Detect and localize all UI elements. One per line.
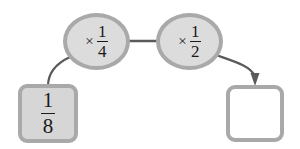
operation-2-numerator: 1 — [190, 23, 201, 40]
operation-1-numerator: 1 — [97, 23, 108, 40]
operation-2-fraction: 1 2 — [190, 23, 201, 61]
result-answer-box[interactable] — [226, 85, 284, 142]
multiplication-sign-icon: × — [85, 34, 93, 49]
operation-2-expression: × 1 2 — [178, 23, 200, 61]
operation-1-denominator: 4 — [97, 43, 108, 60]
start-fraction: 1 8 — [41, 90, 55, 138]
operation-1-fraction: 1 4 — [97, 23, 108, 61]
start-fraction-numerator: 1 — [42, 90, 55, 111]
connector-start-to-op1 — [48, 57, 70, 86]
operation-oval-multiply-one-half: × 1 2 — [156, 13, 223, 70]
start-value-box: 1 8 — [18, 84, 78, 143]
multiplication-sign-icon: × — [178, 34, 186, 49]
operation-1-expression: × 1 4 — [85, 23, 107, 61]
start-fraction-denominator: 8 — [42, 116, 55, 137]
operation-oval-multiply-one-fourth: × 1 4 — [63, 13, 130, 70]
function-machine-diagram: 1 8 × 1 4 × 1 2 — [0, 0, 300, 149]
operation-2-denominator: 2 — [190, 43, 201, 60]
connector-op2-to-result — [216, 55, 255, 76]
